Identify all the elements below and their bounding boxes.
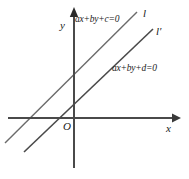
origin-label: O — [63, 121, 71, 132]
equation-label-line-l: ax+by+c=0 — [75, 15, 119, 25]
geometry-figure: ax+by+c=0 ax+by+d=0 y x O l l′ — [0, 0, 189, 179]
line-l-prime — [24, 29, 153, 152]
equation-label-line-l-prime: ax+by+d=0 — [112, 64, 157, 74]
line-l — [5, 12, 137, 143]
x-axis-arrow-icon — [172, 114, 181, 123]
line-label-l: l — [143, 8, 146, 19]
x-axis-label: x — [166, 123, 171, 134]
line-label-l-prime: l′ — [156, 26, 161, 37]
y-axis-label: y — [60, 20, 65, 31]
